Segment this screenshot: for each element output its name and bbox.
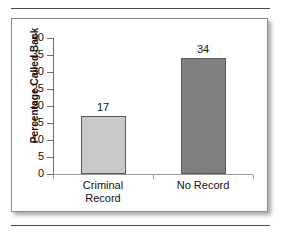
bar-value-label-0: 17	[73, 101, 133, 113]
y-tick-label-15: 15	[32, 116, 47, 128]
y-tick-30: 30	[47, 72, 53, 73]
y-tick-5: 5	[47, 157, 53, 158]
y-tick-label-10: 10	[32, 133, 47, 145]
y-tick-40: 40	[47, 38, 53, 39]
x-category-label-1: No Record	[148, 179, 258, 192]
y-tick-15: 15	[47, 123, 53, 124]
x-category-label-line: No Record	[148, 179, 258, 192]
y-tick-10: 10	[47, 140, 53, 141]
y-tick-label-5: 5	[38, 150, 47, 162]
y-tick-20: 20	[47, 106, 53, 107]
y-tick-label-20: 20	[32, 99, 47, 111]
x-category-label-0: CriminalRecord	[48, 179, 158, 205]
divider-top	[11, 8, 270, 9]
y-tick-label-25: 25	[32, 82, 47, 94]
bar-0: 17	[81, 116, 126, 174]
y-tick-25: 25	[47, 89, 53, 90]
y-tick-label-30: 30	[32, 65, 47, 77]
bar-chart-plot: Percentage Called Back 0510152025303540 …	[12, 19, 269, 213]
bar-1: 34	[181, 58, 226, 174]
x-category-label-line: Record	[48, 192, 158, 205]
y-tick-35: 35	[47, 55, 53, 56]
bar-value-label-1: 34	[173, 43, 233, 55]
x-category-label-line: Criminal	[48, 179, 158, 192]
figure-box: Percentage Called Back 0510152025303540 …	[11, 18, 268, 212]
y-axis-line	[53, 38, 54, 175]
divider-bottom	[11, 225, 270, 226]
y-tick-label-35: 35	[32, 48, 47, 60]
y-tick-label-0: 0	[38, 167, 47, 179]
y-tick-label-40: 40	[32, 31, 47, 43]
